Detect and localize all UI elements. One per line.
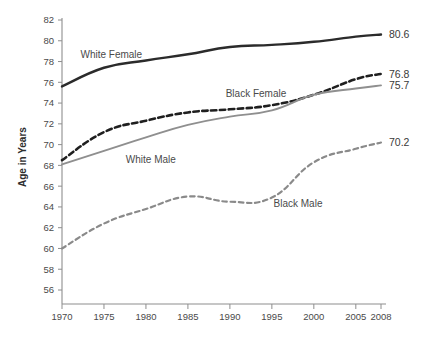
end-value-label-white-male: 75.7	[389, 79, 410, 91]
end-value-label-black-male: 70.2	[389, 136, 410, 148]
chart-canvas: 5658606264666870727476788082197019751980…	[0, 0, 441, 339]
y-tick-label: 74	[43, 97, 54, 108]
y-tick-label: 58	[43, 264, 54, 275]
x-tick-label: 1970	[51, 311, 72, 322]
x-tick-label: 1995	[261, 311, 282, 322]
y-tick-label: 80	[43, 35, 54, 46]
series-label-black-female: Black Female	[226, 88, 287, 99]
x-tick-label: 1980	[135, 311, 156, 322]
y-tick-label: 78	[43, 56, 54, 67]
series-line-black-male	[62, 143, 381, 249]
y-tick-label: 70	[43, 139, 54, 150]
series-line-white-male	[62, 85, 381, 164]
series-label-white-male: White Male	[126, 154, 176, 165]
series-label-white-female: White Female	[80, 49, 142, 60]
x-tick-label: 1990	[219, 311, 240, 322]
series-line-white-female	[62, 35, 381, 87]
end-value-label-white-female: 80.6	[389, 28, 410, 40]
y-tick-label: 56	[43, 284, 54, 295]
y-tick-label: 72	[43, 118, 54, 129]
x-tick-label: 1975	[93, 311, 114, 322]
end-value-label-black-female: 76.8	[389, 68, 410, 80]
y-tick-label: 60	[43, 243, 54, 254]
y-tick-label: 82	[43, 14, 54, 25]
y-tick-label: 68	[43, 160, 54, 171]
y-axis-title: Age in Years	[17, 127, 28, 187]
series-label-black-male: Black Male	[274, 198, 323, 209]
x-tick-label: 2005	[345, 311, 366, 322]
x-tick-label: 1985	[177, 311, 198, 322]
y-tick-label: 66	[43, 181, 54, 192]
y-tick-label: 76	[43, 77, 54, 88]
x-tick-label: 2008	[370, 311, 391, 322]
x-tick-label: 2000	[303, 311, 324, 322]
y-tick-label: 64	[43, 201, 54, 212]
life-expectancy-line-chart: 5658606264666870727476788082197019751980…	[0, 0, 441, 339]
y-tick-label: 62	[43, 222, 54, 233]
